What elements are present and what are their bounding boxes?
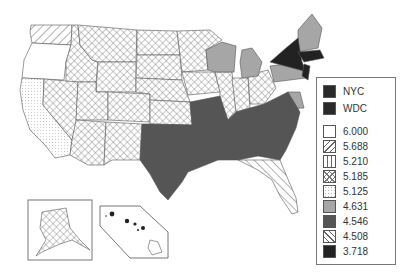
state-florida [238,160,298,214]
legend-item: 5.125 [323,184,368,198]
state-oregon [22,43,71,80]
state-south-dakota [136,55,182,80]
legend-swatch [323,200,336,213]
legend-label: 3.718 [343,246,368,257]
legend-swatch [323,215,336,228]
legend-label: 6.000 [343,126,368,137]
legend-label: 5.688 [343,141,368,152]
state-washington [30,25,72,45]
legend-label: NYC [343,86,364,97]
legend-item: 4.631 [323,199,368,213]
state-arizona [70,120,106,165]
legend-item: 6.000 [323,124,368,138]
legend-item: 4.546 [323,214,368,228]
legend-swatch [323,155,336,168]
legend-label: 4.546 [343,216,368,227]
legend-label: 5.125 [343,186,368,197]
legend-label: WDC [343,103,367,114]
legend-item: 5.185 [323,169,368,183]
state-north-dakota [137,30,180,55]
state-iowa [182,72,220,95]
legend-swatch [323,102,336,115]
state-wyoming [96,62,136,92]
state-colorado [108,92,150,122]
legend-label: 5.210 [343,156,368,167]
legend-swatch [323,140,336,153]
state-new-mexico [104,122,142,165]
legend-item: WDC [323,101,367,115]
legend-swatch [323,245,336,258]
legend-swatch [323,85,336,98]
legend-swatch [323,125,336,138]
legend-label: 5.185 [343,171,368,182]
legend-label: 4.631 [343,201,368,212]
legend-label: 4.508 [343,231,368,242]
map-legend: NYC WDC 6.000 5.688 5.210 5.185 5.125 4.… [316,77,396,265]
legend-item: 5.688 [323,139,368,153]
state-vermont-nh-maine [298,14,322,52]
state-kansas [150,100,192,125]
legend-item: 3.718 [323,244,368,258]
legend-item: 5.210 [323,154,368,168]
legend-item: 4.508 [323,229,368,243]
state-michigan [240,48,262,78]
legend-swatch [323,170,336,183]
legend-swatch [323,185,336,198]
legend-item: NYC [323,84,364,98]
legend-swatch [323,230,336,243]
